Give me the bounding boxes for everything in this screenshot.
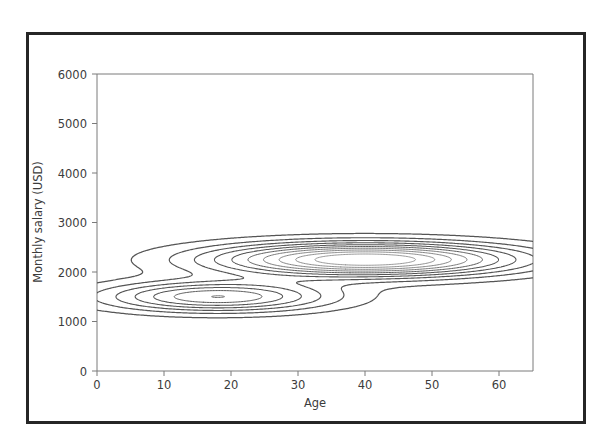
y-axis-tick-labels: 6000 5000 4000 3000 2000 1000 0 <box>58 68 87 379</box>
x-tick-label-10: 10 <box>157 378 172 392</box>
plot-area-background <box>97 74 533 371</box>
y-tick-label-0: 0 <box>80 365 87 379</box>
x-tick-label-30: 30 <box>291 378 306 392</box>
contour-plot-canvas: 6000 5000 4000 3000 2000 1000 0 0 10 20 … <box>0 0 612 447</box>
x-axis-tick-labels: 0 10 20 30 40 50 60 <box>93 378 506 392</box>
y-tick-label-1000: 1000 <box>58 315 87 329</box>
y-tick-label-2000: 2000 <box>58 266 87 280</box>
y-axis-ticks <box>92 74 97 371</box>
y-axis-title: Monthly salary (USD) <box>31 161 45 283</box>
y-tick-label-3000: 3000 <box>58 216 87 230</box>
x-axis-title: Age <box>304 396 326 410</box>
x-tick-label-0: 0 <box>93 378 100 392</box>
x-axis-ticks <box>97 371 499 376</box>
x-tick-label-20: 20 <box>224 378 239 392</box>
x-tick-label-60: 60 <box>492 378 507 392</box>
figure-root: 6000 5000 4000 3000 2000 1000 0 0 10 20 … <box>0 0 612 447</box>
x-tick-label-50: 50 <box>425 378 440 392</box>
y-tick-label-6000: 6000 <box>58 68 87 82</box>
y-tick-label-5000: 5000 <box>58 117 87 131</box>
y-tick-label-4000: 4000 <box>58 167 87 181</box>
x-tick-label-40: 40 <box>358 378 373 392</box>
